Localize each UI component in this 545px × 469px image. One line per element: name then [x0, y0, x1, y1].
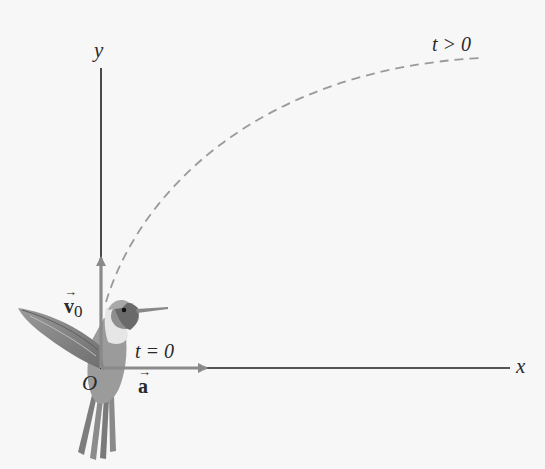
time-initial-label: t = 0: [135, 341, 174, 361]
vector-v-symbol: v: [64, 296, 74, 316]
vector-a-symbol: a: [138, 376, 148, 396]
y-axis-label: y: [94, 40, 103, 61]
acceleration-label: a: [138, 376, 148, 396]
x-axis-label: x: [516, 356, 525, 377]
initial-velocity-label: v0: [64, 296, 83, 316]
origin-label: O: [82, 373, 97, 394]
trajectory-path: [106, 58, 480, 302]
kinematics-diagram: [0, 0, 545, 469]
time-later-label: t > 0: [432, 34, 471, 54]
vector-v-subscript: 0: [74, 302, 83, 321]
